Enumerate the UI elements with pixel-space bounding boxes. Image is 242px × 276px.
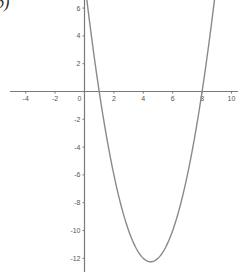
function-plot: -4-20246810642-2-4-6-8-10-12 [0, 0, 242, 276]
parabola-curve [87, 0, 215, 262]
axes [10, 0, 238, 272]
x-tick-label: 10 [228, 95, 236, 102]
x-tick-label: 4 [141, 95, 145, 102]
x-tick-label: 0 [78, 95, 82, 102]
y-tick-label: -4 [74, 144, 80, 151]
x-tick-label: -2 [52, 95, 58, 102]
tick-labels: -4-20246810642-2-4-6-8-10-12 [23, 5, 236, 262]
y-tick-label: -12 [70, 255, 80, 262]
y-tick-label: 4 [77, 32, 81, 39]
y-tick-label: -2 [74, 116, 80, 123]
y-tick-label: -6 [74, 171, 80, 178]
y-tick-label: -10 [70, 227, 80, 234]
y-tick-label: 6 [77, 5, 81, 12]
x-tick-label: 6 [171, 95, 175, 102]
y-tick-label: 2 [77, 60, 81, 67]
y-tick-label: -8 [74, 199, 80, 206]
x-tick-label: -4 [23, 95, 29, 102]
x-tick-label: 2 [112, 95, 116, 102]
